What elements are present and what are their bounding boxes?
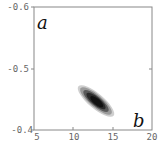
y-tick-label: -0.4 (11, 125, 33, 135)
density-ellipse (74, 80, 119, 121)
x-tick-label: 5 (34, 132, 39, 142)
density-plot: -0.6 -0.5 -0.4 5 10 15 20 a b (0, 0, 165, 144)
y-axis-label: a (37, 12, 48, 33)
x-tick-label: 10 (69, 132, 80, 142)
x-tick-label: 20 (147, 132, 158, 142)
x-tick-label: 15 (108, 132, 119, 142)
y-tick-label: -0.6 (7, 2, 29, 12)
x-axis-label: b (133, 110, 145, 131)
y-tick-label: -0.5 (7, 64, 29, 74)
